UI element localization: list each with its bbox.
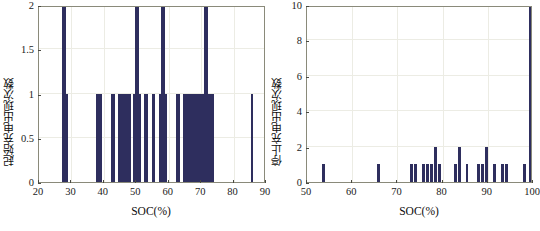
x-axis-tick [487, 180, 488, 183]
x-axis-label-right: SOC(%) [399, 205, 439, 217]
gridline-vertical [169, 7, 170, 182]
gridline-horizontal [39, 48, 264, 49]
bar [458, 147, 461, 182]
gridline-vertical [104, 7, 105, 182]
x-axis-tick-label: 80 [436, 186, 447, 198]
y-axis-tick [306, 183, 309, 184]
bar [505, 164, 508, 182]
x-axis-tick [532, 180, 533, 183]
bar [422, 164, 425, 182]
bar [481, 164, 484, 182]
gridline-horizontal [307, 75, 531, 76]
y-axis-tick [38, 139, 41, 140]
bar [66, 94, 68, 183]
x-axis-tick [70, 180, 71, 183]
bar [113, 94, 115, 183]
bar [434, 147, 437, 182]
bar [529, 6, 532, 182]
y-axis-label-left: 起始充电出现次数 [2, 24, 18, 166]
x-axis-tick-label: 60 [162, 186, 173, 198]
gridline-vertical [352, 7, 353, 182]
y-axis-tick [38, 95, 41, 96]
bar [426, 164, 429, 182]
chart-panel-left: 203040506070809000.511.52 SOC(%) 起始充电出现次… [0, 0, 268, 231]
bar [139, 94, 141, 183]
bar [414, 164, 417, 182]
x-axis-tick [442, 180, 443, 183]
bar [153, 94, 155, 183]
gridline-vertical [71, 7, 72, 182]
y-axis-label-right: 停止充电出现次数 [270, 24, 286, 166]
x-axis-tick [265, 180, 266, 183]
x-axis-tick [396, 180, 397, 183]
y-axis-tick-label: 0 [280, 177, 302, 189]
bar [129, 94, 131, 183]
gridline-horizontal [307, 39, 531, 40]
y-axis-tick-label: 10 [280, 0, 302, 12]
y-axis-tick [306, 41, 309, 42]
y-axis-tick-label: 2 [12, 0, 34, 12]
plot-area-left [38, 6, 265, 183]
x-axis-tick-label: 60 [346, 186, 357, 198]
y-axis-tick [306, 6, 309, 7]
gridline-horizontal [307, 110, 531, 111]
y-axis-tick [38, 183, 41, 184]
bar [501, 164, 504, 182]
gridline-vertical [397, 7, 398, 182]
bar [523, 164, 526, 182]
gridline-vertical [443, 7, 444, 182]
x-axis-tick-label: 30 [65, 186, 76, 198]
x-axis-tick-label: 40 [98, 186, 109, 198]
bar [493, 164, 496, 182]
gridline-horizontal [307, 146, 531, 147]
x-axis-label-left: SOC(%) [131, 205, 171, 217]
bar [377, 164, 380, 182]
y-axis-tick [38, 6, 41, 7]
x-axis-tick-label: 20 [33, 186, 44, 198]
bar [100, 94, 102, 183]
bar [251, 94, 253, 183]
x-axis-tick [200, 180, 201, 183]
x-axis-tick [168, 180, 169, 183]
x-axis-tick-label: 70 [195, 186, 206, 198]
bar [322, 164, 325, 182]
y-axis-tick [38, 50, 41, 51]
x-axis-tick-label: 80 [227, 186, 238, 198]
bar [454, 164, 457, 182]
bar [485, 147, 488, 182]
bar [165, 94, 167, 183]
bar [477, 164, 480, 182]
gridline-vertical [234, 7, 235, 182]
bar [410, 164, 413, 182]
bar [178, 94, 180, 183]
y-axis-tick [306, 112, 309, 113]
y-axis-tick [306, 77, 309, 78]
x-axis-tick-label: 70 [391, 186, 402, 198]
chart-panel-right: 50607080901000246810 SOC(%) 停止充电出现次数 [269, 0, 537, 231]
bar [146, 94, 148, 183]
x-axis-tick [135, 180, 136, 183]
x-axis-tick [103, 180, 104, 183]
x-axis-tick-label: 50 [301, 186, 312, 198]
x-axis-tick [351, 180, 352, 183]
bar [430, 164, 433, 182]
plot-area-right [306, 6, 532, 183]
x-axis-tick-label: 50 [130, 186, 141, 198]
x-axis-tick-label: 100 [524, 186, 540, 198]
bar [212, 94, 214, 183]
y-axis-tick-label: 0 [12, 177, 34, 189]
x-axis-tick [233, 180, 234, 183]
y-axis-tick [306, 148, 309, 149]
x-axis-tick-label: 90 [482, 186, 493, 198]
bar [466, 164, 469, 182]
